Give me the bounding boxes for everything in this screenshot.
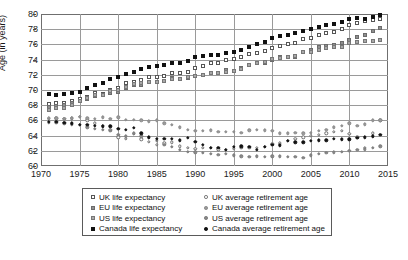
x-tick-label: 1985 <box>147 170 167 179</box>
data-point <box>324 31 328 35</box>
data-point <box>108 77 112 81</box>
legend-item[interactable]: Canada average retirement age <box>201 224 331 235</box>
y-axis-label: Age (in years) <box>0 0 7 88</box>
x-axis-ticks: 1970197519801985199019952000200520102015 <box>41 170 388 182</box>
gridline-horizontal <box>41 151 388 152</box>
data-point <box>209 53 213 57</box>
data-point <box>332 30 336 34</box>
data-point <box>147 80 151 84</box>
x-tick-label: 2005 <box>301 170 321 179</box>
data-point <box>309 50 313 54</box>
data-point <box>224 51 228 55</box>
x-tick-label: 1995 <box>224 170 244 179</box>
data-point <box>378 13 382 17</box>
data-point <box>278 34 282 38</box>
legend-item[interactable]: UK life expectancy <box>88 192 200 203</box>
x-tick-label: 2015 <box>378 170 398 179</box>
legend-item[interactable]: EU average retirement age <box>201 203 331 214</box>
data-point <box>309 36 313 40</box>
legend-item[interactable]: US life expectancy <box>88 213 200 224</box>
legend-item[interactable]: US average retirement age <box>201 213 331 224</box>
data-point <box>332 22 336 26</box>
data-point <box>108 89 112 93</box>
gridline-horizontal <box>41 60 388 61</box>
data-point <box>286 33 290 37</box>
x-tick-label: 2000 <box>262 170 282 179</box>
data-point <box>278 56 282 60</box>
data-point <box>378 17 382 21</box>
data-point <box>186 75 190 79</box>
data-point <box>355 16 359 20</box>
legend-marker-icon <box>201 227 211 231</box>
legend-item-label: EU life expectancy <box>98 203 165 212</box>
y-tick-mark <box>33 60 36 61</box>
data-point <box>255 61 259 65</box>
data-point <box>255 42 259 46</box>
data-point <box>239 48 243 52</box>
data-point <box>317 25 321 29</box>
data-point <box>155 75 159 79</box>
data-point <box>132 70 136 74</box>
data-point <box>54 93 58 97</box>
data-point <box>332 45 336 49</box>
chart-legend: UK life expectancyEU life expectancyUS l… <box>82 188 332 236</box>
legend-marker-icon <box>88 227 98 231</box>
x-tick-label: 1970 <box>31 170 51 179</box>
data-point <box>93 83 97 87</box>
data-point <box>363 33 367 37</box>
gridline-horizontal <box>41 75 388 76</box>
data-point <box>355 21 359 25</box>
data-point <box>324 46 328 50</box>
legend-item-label: US life expectancy <box>98 214 165 223</box>
data-point <box>301 50 305 54</box>
legend-item[interactable]: Canada life expectancy <box>88 224 200 235</box>
legend-column-left: UK life expectancyEU life expectancyUS l… <box>88 192 200 234</box>
data-point <box>347 17 351 21</box>
data-point <box>209 61 213 65</box>
data-point <box>347 41 351 45</box>
legend-column-right: UK average retirement ageEU average reti… <box>201 192 331 234</box>
legend-item[interactable]: UK average retirement age <box>201 192 331 203</box>
data-point <box>317 33 321 37</box>
data-point <box>286 42 290 46</box>
data-point <box>178 61 182 65</box>
data-point <box>278 44 282 48</box>
y-tick-mark <box>33 151 36 152</box>
data-point <box>124 72 128 76</box>
data-point <box>85 96 89 100</box>
data-point <box>162 79 166 83</box>
data-point <box>201 73 205 77</box>
x-tick-label: 1990 <box>185 170 205 179</box>
data-point <box>263 49 267 53</box>
y-tick-mark <box>33 44 36 45</box>
data-point <box>378 26 382 30</box>
y-tick-mark <box>33 120 36 121</box>
data-point <box>201 64 205 68</box>
data-point <box>255 51 259 55</box>
data-point <box>201 54 205 58</box>
data-point <box>178 71 182 75</box>
x-tick-label: 1975 <box>70 170 90 179</box>
data-point <box>132 82 136 86</box>
data-point <box>186 70 190 74</box>
data-point <box>62 106 66 110</box>
data-point <box>170 77 174 81</box>
legend-item-label: EU average retirement age <box>211 203 308 212</box>
legend-marker-icon <box>201 206 211 210</box>
data-point <box>378 38 382 42</box>
legend-marker-icon <box>88 216 98 220</box>
data-point <box>224 70 228 74</box>
data-point <box>371 29 375 33</box>
data-point <box>47 92 51 96</box>
data-point <box>309 27 313 31</box>
legend-item[interactable]: EU life expectancy <box>88 203 200 214</box>
data-point <box>224 58 228 62</box>
data-point <box>116 75 120 79</box>
data-point <box>62 92 66 96</box>
data-point <box>363 17 367 21</box>
legend-item-label: UK average retirement age <box>211 193 308 202</box>
data-point <box>293 31 297 35</box>
data-point <box>270 36 274 40</box>
data-point <box>155 64 159 68</box>
x-tick-label: 1980 <box>108 170 128 179</box>
